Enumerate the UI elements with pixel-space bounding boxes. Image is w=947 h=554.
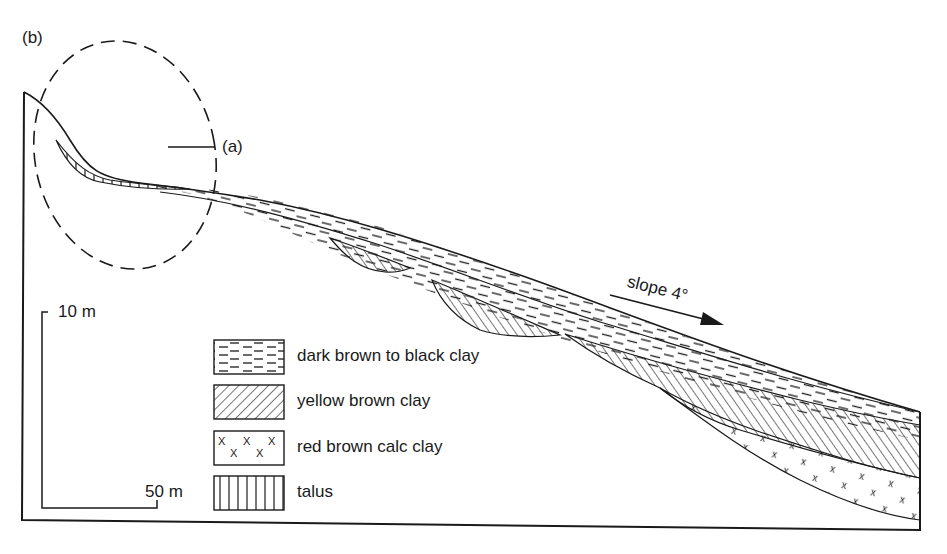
legend-label-talus: talus: [297, 482, 333, 502]
svg-text:X: X: [230, 447, 238, 459]
legend-swatches: [214, 340, 284, 510]
legend-swatch-talus: [214, 476, 284, 510]
legend-swatch-yellow-brown-clay: [214, 385, 284, 419]
cross-section-diagram: x x XXX XX: [0, 0, 947, 554]
panel-label: (b): [22, 28, 43, 48]
scale-horizontal-label: 50 m: [145, 482, 183, 502]
inset-label: (a): [222, 137, 243, 157]
legend-label-yellow-brown-clay: yellow brown clay: [297, 391, 430, 411]
legend-swatch-dark-brown-clay: [214, 340, 284, 374]
legend-label-red-brown-calc-clay: red brown calc clay: [297, 437, 443, 457]
svg-text:X: X: [243, 435, 251, 447]
scale-vertical-label: 10 m: [58, 302, 96, 322]
inset-outline: [13, 24, 237, 286]
scale-bar: [42, 312, 157, 508]
svg-text:X: X: [268, 435, 276, 447]
svg-text:X: X: [218, 435, 226, 447]
svg-text:X: X: [256, 447, 264, 459]
legend-label-dark-brown-clay: dark brown to black clay: [297, 346, 479, 366]
